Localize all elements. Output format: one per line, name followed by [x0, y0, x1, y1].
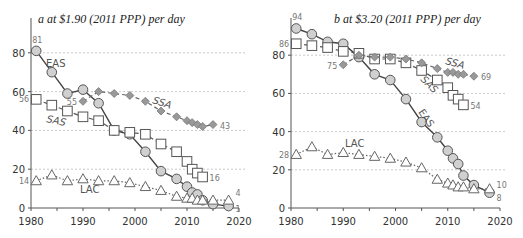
series-start-value: 75: [327, 62, 337, 71]
diamond-marker: [173, 113, 181, 121]
series-end-value: 1: [236, 205, 241, 214]
triangle-marker: [208, 195, 218, 204]
square-marker: [156, 139, 166, 149]
y-tick-label: 40: [12, 125, 25, 136]
poverty-rate-charts: 02040608019801990200020102020a at $1.90 …: [0, 0, 523, 238]
square-marker: [47, 100, 57, 110]
circle-marker: [172, 174, 182, 184]
circle-marker: [385, 75, 395, 85]
circle-marker: [401, 94, 411, 104]
square-marker: [198, 172, 208, 182]
series-start-value: 94: [292, 13, 302, 22]
circle-marker: [307, 29, 317, 39]
x-tick-label: 1980: [278, 216, 303, 227]
series-ssa: 5543SSA: [67, 88, 230, 131]
square-marker: [307, 41, 317, 51]
x-tick-label: 2020: [226, 216, 251, 227]
diamond-marker: [126, 91, 134, 99]
x-tick-label: 2000: [383, 216, 408, 227]
triangle-marker: [354, 149, 364, 158]
square-marker: [109, 126, 119, 136]
square-marker: [63, 106, 73, 116]
x-tick-label: 1990: [70, 216, 95, 227]
diamond-marker: [209, 121, 217, 129]
series-start-value: 55: [67, 98, 77, 107]
diamond-marker: [470, 72, 478, 80]
chart-panel-b: 02040608019801990200020102020b at $3.20 …: [272, 12, 512, 227]
chart-title: b at $3.20 (2011 PPP) per day: [334, 12, 481, 26]
square-marker: [459, 100, 469, 110]
series-end-value: 4: [236, 189, 241, 198]
square-marker: [94, 116, 104, 126]
circle-marker: [94, 98, 104, 108]
y-tick-label: 80: [272, 50, 285, 61]
series-start-value: 81: [32, 36, 42, 45]
y-tick-label: 40: [272, 127, 285, 138]
series-name-label: LAC: [80, 184, 99, 195]
triangle-marker: [291, 149, 301, 158]
diamond-marker: [339, 61, 347, 69]
x-tick-label: 2000: [122, 216, 147, 227]
triangle-marker: [31, 176, 41, 185]
series-end-value: 16: [210, 174, 220, 183]
diamond-marker: [95, 88, 103, 96]
series-name-label: SSA: [151, 94, 173, 110]
series-end-value: 54: [470, 102, 480, 111]
series-sas: 5616SAS: [19, 95, 220, 183]
circle-marker: [156, 166, 166, 176]
triangle-marker: [109, 176, 119, 185]
x-tick-label: 2010: [174, 216, 199, 227]
circle-marker: [459, 171, 469, 181]
series-start-value: 86: [279, 40, 289, 49]
diamond-marker: [79, 97, 87, 105]
square-marker: [338, 47, 348, 57]
y-tick-label: 20: [272, 165, 285, 176]
diamond-marker: [459, 70, 467, 78]
diamond-marker: [433, 65, 441, 73]
square-marker: [78, 112, 88, 122]
triangle-marker: [140, 181, 150, 190]
circle-marker: [78, 85, 88, 95]
x-tick-label: 1980: [18, 216, 43, 227]
chart-panel-a: 02040608019801990200020102020a at $1.90 …: [12, 12, 251, 227]
y-tick-label: 0: [279, 203, 285, 214]
series-end-value: 43: [220, 122, 230, 131]
series-name-label: LAC: [345, 138, 364, 149]
series-end-value: 10: [497, 181, 507, 190]
chart-title: a at $1.90 (2011 PPP) per day: [38, 12, 185, 26]
y-tick-label: 60: [272, 88, 285, 99]
triangle-marker: [416, 163, 426, 172]
triangle-marker: [62, 176, 72, 185]
y-tick-label: 80: [12, 48, 25, 59]
square-marker: [31, 95, 41, 105]
circle-marker: [141, 147, 151, 157]
circle-marker: [63, 89, 73, 99]
series-end-value: 69: [481, 73, 491, 82]
circle-marker: [291, 24, 301, 34]
circle-marker: [370, 70, 380, 80]
triangle-marker: [171, 191, 181, 200]
series-start-value: 14: [19, 177, 29, 186]
square-marker: [323, 43, 333, 53]
triangle-marker: [401, 157, 411, 166]
triangle-marker: [307, 142, 317, 151]
triangle-marker: [484, 184, 494, 193]
triangle-marker: [385, 153, 395, 162]
series-name-label: EAS: [46, 58, 66, 69]
diamond-marker: [141, 97, 149, 105]
y-tick-label: 20: [12, 164, 25, 175]
circle-marker: [31, 46, 41, 56]
x-tick-label: 2010: [435, 216, 460, 227]
square-marker: [125, 128, 135, 138]
y-tick-label: 0: [19, 203, 25, 214]
triangle-marker: [78, 174, 88, 183]
series-start-value: 56: [19, 95, 29, 104]
square-marker: [141, 129, 151, 139]
triangle-marker: [156, 185, 166, 194]
x-tick-label: 1990: [331, 216, 356, 227]
circle-marker: [433, 133, 443, 143]
triangle-marker: [223, 195, 233, 204]
series-end-value: 8: [497, 194, 502, 203]
triangle-marker: [432, 174, 442, 183]
diamond-marker: [110, 90, 118, 98]
